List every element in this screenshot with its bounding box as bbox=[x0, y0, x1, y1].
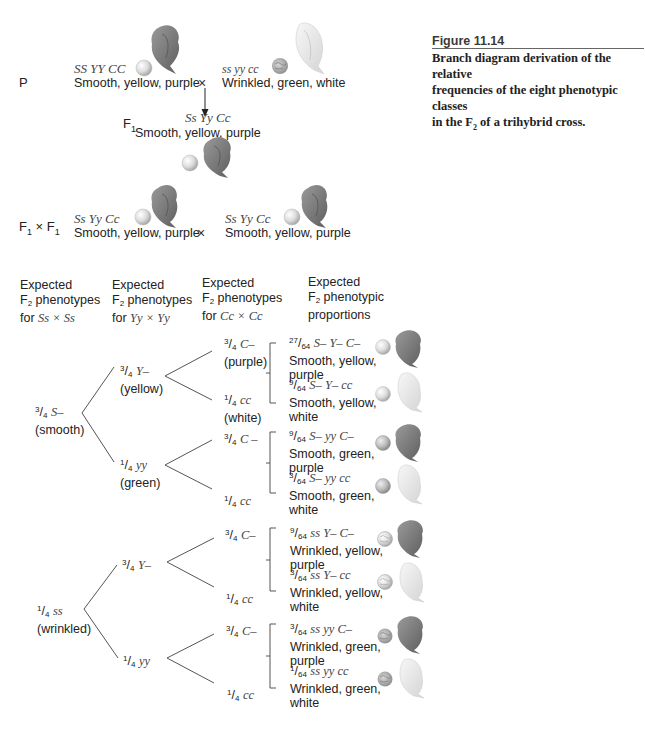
s-branch-smooth: 3/4 S– (smooth) bbox=[35, 403, 84, 437]
c-branch-purple-2: 3/4 C – bbox=[224, 430, 258, 450]
white-flower-icon bbox=[394, 462, 426, 506]
wrinkled-green-seed-icon bbox=[376, 627, 394, 645]
proportion-smooth-yellow-white: 9/64 S– Y– cc Smooth, yellow, white bbox=[289, 376, 377, 424]
c-branch-purple: 3/4 C– (purple) bbox=[224, 335, 267, 369]
wrinkled-yellow-seed-icon bbox=[376, 573, 394, 591]
wrinkled-green-seed-icon bbox=[376, 670, 394, 688]
c-branch-white-4: 1/4 cc bbox=[227, 686, 254, 706]
smooth-green-seed-icon bbox=[374, 477, 392, 495]
white-flower-icon bbox=[394, 370, 426, 414]
proportion-wrinkled-green-purple: 3/64 ss yy C– Wrinkled, green, purple bbox=[290, 620, 381, 668]
smooth-green-seed-icon bbox=[374, 434, 392, 452]
purple-flower-icon bbox=[392, 422, 426, 464]
proportion-wrinkled-green-white: 1/64 ss yy cc Wrinkled, green, white bbox=[290, 662, 381, 710]
white-flower-icon bbox=[396, 560, 428, 604]
c-branch-purple-3: 3/4 C– bbox=[225, 526, 255, 546]
proportion-wrinkled-yellow-purple: 9/64 ss Y– C– Wrinkled, yellow, purple bbox=[290, 524, 383, 572]
c-branch-white: 1/4 cc (white) bbox=[224, 391, 262, 425]
s-branch-wrinkled: 1/4 ss (wrinkled) bbox=[37, 602, 91, 636]
y-branch-yellow: 3/4 Y– (yellow) bbox=[120, 362, 163, 396]
smooth-yellow-seed-icon bbox=[374, 385, 392, 403]
c-branch-white-3: 1/4 cc bbox=[226, 590, 253, 610]
white-flower-icon bbox=[396, 656, 428, 700]
smooth-yellow-seed-icon bbox=[374, 338, 392, 356]
wrinkled-yellow-seed-icon bbox=[376, 530, 394, 548]
purple-flower-icon bbox=[394, 518, 428, 560]
c-branch-purple-4: 3/4 C– bbox=[226, 622, 256, 642]
y-branch-green-2: 1/4 yy bbox=[123, 652, 150, 672]
purple-flower-icon bbox=[394, 614, 428, 656]
c-branch-white-2: 1/4 cc bbox=[224, 492, 251, 512]
proportion-smooth-green-purple: 9/64 S– yy C– Smooth, green, purple bbox=[289, 427, 374, 475]
proportion-smooth-green-white: 3/64 S– yy cc Smooth, green, white bbox=[289, 469, 374, 517]
proportion-smooth-yellow-purple: 27/64 S– Y– C– Smooth, yellow, purple bbox=[289, 334, 377, 382]
proportion-wrinkled-yellow-white: 3/64 ss Y– cc Wrinkled, yellow, white bbox=[290, 566, 383, 614]
y-branch-green: 1/4 yy (green) bbox=[120, 456, 160, 490]
y-branch-yellow-2: 3/4 Y– bbox=[122, 556, 151, 576]
purple-flower-icon bbox=[392, 328, 426, 370]
